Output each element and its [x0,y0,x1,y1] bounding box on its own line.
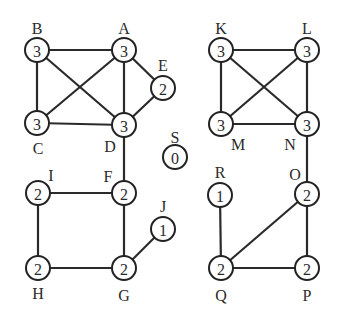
node-label: K [215,20,227,37]
node-e: 2E [151,57,175,101]
node-label: Q [215,287,227,304]
node-degree: 3 [33,116,41,133]
node-degree: 2 [120,186,128,203]
node-n: 3N [284,112,319,153]
node-label: S [171,129,180,146]
node-degree: 2 [159,81,167,98]
node-degree: 2 [303,261,311,278]
node-m: 3M [209,112,245,153]
node-degree: 1 [159,222,167,239]
node-f: 2F [104,168,136,206]
node-degree: 2 [217,261,225,278]
node-label: B [32,20,43,37]
node-label: M [231,136,245,153]
edge-c-d [37,123,124,125]
node-degree: 3 [217,43,225,60]
node-degree: 3 [217,117,225,134]
node-q: 2Q [209,256,233,304]
node-label: C [33,140,44,157]
node-d: 3D [104,113,136,155]
node-degree: 2 [120,261,128,278]
node-degree: 3 [303,117,311,134]
node-degree: 0 [171,150,179,167]
node-k: 3K [209,20,233,63]
node-a: 3A [112,20,136,63]
node-label: F [104,168,113,185]
node-p: 2P [295,256,319,304]
node-degree: 2 [34,261,42,278]
node-r: 1R [208,164,232,208]
node-label: G [118,287,130,304]
nodes-layer: 3A3B3C3D2E2F2G2H2I1J3K3L3M3N2O2P2Q1R0S [25,20,319,304]
node-label: L [302,20,312,37]
node-degree: 3 [33,43,41,60]
node-h: 2H [26,256,50,302]
node-degree: 3 [120,43,128,60]
node-b: 3B [25,20,49,63]
node-label: P [303,287,312,304]
graph-diagram: 3A3B3C3D2E2F2G2H2I1J3K3L3M3N2O2P2Q1R0S [0,0,345,323]
node-s: 0S [163,129,187,170]
node-label: D [104,138,116,155]
node-degree: 3 [120,118,128,135]
node-degree: 2 [34,186,42,203]
node-label: I [48,167,53,184]
node-degree: 1 [216,188,224,205]
node-label: E [158,57,168,74]
node-label: H [32,285,44,302]
node-label: A [118,20,130,37]
node-c: 3C [25,111,49,157]
edge-o-q [221,194,307,268]
node-g: 2G [112,256,136,304]
node-label: O [289,166,301,183]
node-label: J [160,198,166,215]
node-degree: 2 [303,187,311,204]
node-o: 2O [289,166,319,207]
node-j: 1J [151,198,175,242]
node-degree: 3 [303,43,311,60]
node-label: N [284,136,296,153]
node-i: 2I [26,167,54,206]
node-label: R [215,164,226,181]
node-l: 3L [295,20,319,63]
